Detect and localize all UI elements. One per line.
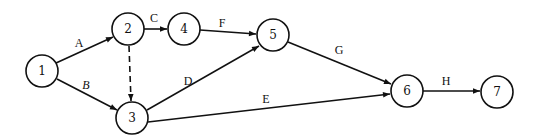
arrow-icon <box>147 46 259 110</box>
node-2: 2 <box>112 13 144 45</box>
node-1: 1 <box>26 55 58 87</box>
arrow-icon <box>200 30 256 34</box>
node-label: 2 <box>124 22 132 36</box>
edge-dummy-2-to-3 <box>129 46 131 101</box>
network-diagram: A B C D E F G H 1 2 3 4 <box>0 0 537 137</box>
node-label: 7 <box>493 85 501 99</box>
node-label: 4 <box>180 22 188 36</box>
node-7: 7 <box>481 76 513 108</box>
node-6: 6 <box>391 75 423 107</box>
node-label: 6 <box>403 84 411 98</box>
node-5: 5 <box>257 19 289 51</box>
edge-label-e: E <box>262 92 269 106</box>
node-label: 5 <box>269 28 277 42</box>
edge-label-b: B <box>82 78 90 92</box>
edge-label-f: F <box>219 16 226 30</box>
edge-label-g: G <box>335 43 344 57</box>
node-label: 3 <box>128 111 136 125</box>
edge-label-h: H <box>442 74 451 88</box>
edge-label-a: A <box>75 36 84 50</box>
node-4: 4 <box>168 13 200 45</box>
node-label: 1 <box>38 64 46 78</box>
edge-d-3-to-5 <box>147 46 259 110</box>
edge-label-d: D <box>184 74 193 88</box>
arrow-icon <box>129 46 131 101</box>
node-3: 3 <box>116 102 148 134</box>
edge-a-1-to-2 <box>56 37 113 63</box>
edge-label-c: C <box>150 11 158 25</box>
edge-f-4-to-5 <box>200 30 256 34</box>
arrow-icon <box>56 37 113 63</box>
